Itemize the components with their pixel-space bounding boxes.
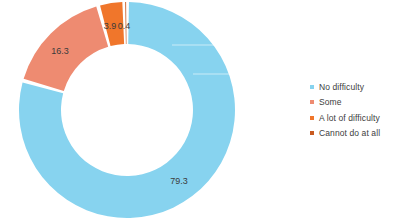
chart-plot-area: 79.3 16.3 3.9 0.4 [0,0,300,222]
donut-svg: 79.3 16.3 3.9 0.4 [0,0,300,222]
square-marker-icon [310,131,314,135]
data-label-no-difficulty: 79.3 [170,176,188,186]
legend-item-label: Cannot do at all [319,129,380,138]
legend-item-label: A lot of difficulty [319,114,380,123]
legend-item-some[interactable]: Some [309,95,404,111]
donut-chart: 79.3 16.3 3.9 0.4 No difficulty Some A l… [0,0,404,222]
legend-item-a-lot-of-difficulty[interactable]: A lot of difficulty [309,110,404,126]
data-label-some: 16.3 [51,46,69,56]
square-marker-icon [310,85,314,89]
legend-item-no-difficulty[interactable]: No difficulty [309,79,404,95]
legend-item-label: Some [319,98,342,107]
square-marker-icon [310,100,314,104]
data-label-cannot-do-at-all: 0.4 [118,21,131,31]
donut-slices [19,2,235,218]
data-label-a-lot-of-difficulty: 3.9 [104,21,117,31]
legend-item-cannot-do-at-all[interactable]: Cannot do at all [309,126,404,142]
chart-legend: No difficulty Some A lot of difficulty C… [309,79,404,141]
square-marker-icon [310,116,314,120]
legend-item-label: No difficulty [319,83,364,92]
